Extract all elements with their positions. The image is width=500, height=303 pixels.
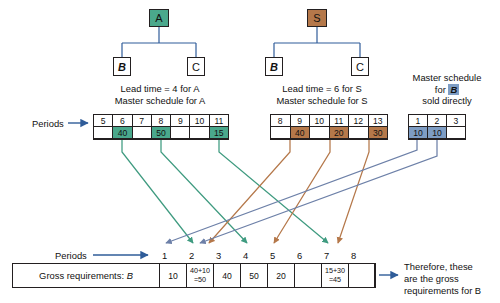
gross-period-number: 7 xyxy=(324,250,329,261)
periods-label-bottom: Periods xyxy=(55,250,87,261)
caption-lead-time-s: Lead time = 6 for S xyxy=(237,83,407,95)
bom-node-s-child-b: B xyxy=(265,57,283,76)
caption-lead-time-a-text: Lead time = 4 for A xyxy=(121,83,200,94)
diagram-canvas: A B C S B C Lead time = 4 for A Master s… xyxy=(0,0,500,303)
gross-period-number: 4 xyxy=(243,250,248,261)
link-s-20-to-p5 xyxy=(274,140,330,243)
caption-master-schedule-b: Master schedule for B sold directly xyxy=(394,72,500,107)
gross-requirements-border xyxy=(12,263,375,288)
bom-node-a: A xyxy=(149,9,169,27)
gross-period-number: 8 xyxy=(351,250,356,261)
bom-node-a-child-b-label: B xyxy=(118,61,126,73)
schedule-s-border xyxy=(270,114,388,140)
bom-node-a-child-b: B xyxy=(113,57,131,76)
gross-period-number: 1 xyxy=(162,250,167,261)
conclusion-note: Therefore, these are the gross requireme… xyxy=(404,261,500,297)
caption-ms-b-line3: sold directly xyxy=(422,95,472,106)
tree-a-connectors xyxy=(122,27,196,57)
conclusion-note-line2: are the gross xyxy=(404,273,459,284)
link-b-10-to-p2 xyxy=(200,140,437,243)
caption-ms-b-line2: for xyxy=(435,84,446,95)
bom-node-s-child-c: C xyxy=(351,57,369,76)
bom-node-a-child-c: C xyxy=(187,57,205,76)
link-s-40-to-p3 xyxy=(209,140,290,243)
caption-ms-b-line1: Master schedule xyxy=(413,72,482,83)
caption-lead-time-a: Lead time = 4 for A xyxy=(75,83,245,95)
bom-node-s-child-b-label: B xyxy=(270,61,278,73)
conclusion-note-line1: Therefore, these xyxy=(404,261,473,272)
link-b-10-to-p1 xyxy=(166,140,417,243)
bom-node-s: S xyxy=(307,9,327,27)
gross-period-number: 6 xyxy=(297,250,302,261)
tree-s-connectors xyxy=(274,27,360,57)
link-a-15-to-p7 xyxy=(219,140,328,243)
link-s-30-to-p7 xyxy=(338,140,369,243)
gross-period-number: 2 xyxy=(189,250,194,261)
conclusion-note-line3: requirements for B xyxy=(404,285,481,296)
periods-label-top: Periods xyxy=(32,118,64,129)
gross-period-number: 3 xyxy=(216,250,221,261)
periods-label-bottom-text: Periods xyxy=(55,250,87,261)
caption-master-schedule-s-text: Master schedule for S xyxy=(276,95,367,106)
caption-ms-b-item: B xyxy=(448,84,459,96)
caption-master-schedule-s: Master schedule for S xyxy=(237,95,407,107)
bom-node-s-label: S xyxy=(313,12,320,24)
caption-master-schedule-a-text: Master schedule for A xyxy=(115,95,206,106)
schedule-b-border xyxy=(408,114,466,140)
bom-node-a-child-c-label: C xyxy=(192,61,200,73)
gross-period-number: 5 xyxy=(270,250,275,261)
link-a-40-to-p2 xyxy=(122,140,193,243)
link-a-50-to-p4 xyxy=(161,140,247,243)
schedule-a-border xyxy=(93,114,229,140)
caption-master-schedule-a: Master schedule for A xyxy=(75,95,245,107)
caption-lead-time-s-text: Lead time = 6 for S xyxy=(282,83,361,94)
bom-node-a-label: A xyxy=(155,12,162,24)
bom-node-s-child-c-label: C xyxy=(356,61,364,73)
periods-label-top-text: Periods xyxy=(32,118,64,129)
